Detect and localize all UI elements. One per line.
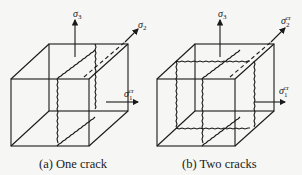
sigma3-label-a: σ3 <box>73 8 82 21</box>
sigma2-arrow-a <box>125 29 138 42</box>
sigma2-arrow-b <box>271 28 285 42</box>
sigma2-label-a: σ2 <box>138 19 147 32</box>
panel-one-crack: σ3 σ2 σ1cr (a) One crack <box>11 8 147 171</box>
crack-diagram: σ3 σ2 σ1cr (a) One crack σ3 <box>0 0 302 175</box>
sigma2-label-b: σ2cr <box>281 14 292 29</box>
sigma2-dashed-b <box>230 42 271 77</box>
cube-b <box>157 44 274 146</box>
sigma1-label-b: σ1cr <box>279 84 290 99</box>
sigma1-label-a: σ1cr <box>124 87 135 102</box>
sigma2-dashed-a <box>84 42 125 77</box>
crack-plane-vertical-b <box>202 50 240 146</box>
caption-b: (b) Two cracks <box>182 157 257 171</box>
sigma3-label-b: σ3 <box>218 8 227 21</box>
cube-a <box>11 44 128 146</box>
panel-two-cracks: σ3 σ2cr σ1cr (b) Two cracks <box>157 8 292 171</box>
crack-plane-a <box>57 44 96 146</box>
caption-a: (a) One crack <box>39 157 108 171</box>
